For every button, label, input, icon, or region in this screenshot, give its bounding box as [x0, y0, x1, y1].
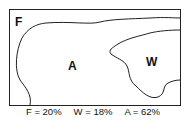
w-boundary [110, 30, 180, 98]
caption-w: W = 18% [74, 106, 113, 117]
caption-a: A = 62% [124, 106, 160, 117]
region-label-w: W [146, 55, 158, 69]
region-label-f: F [15, 15, 22, 29]
region-label-a: A [68, 59, 77, 73]
percentage-caption: F = 20% W = 18% A = 62% [0, 106, 186, 117]
caption-f: F = 20% [26, 106, 62, 117]
